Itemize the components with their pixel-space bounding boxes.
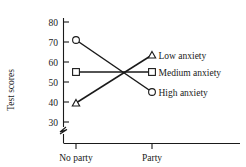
x-axis-label-no-party: No party: [59, 153, 93, 163]
y-tick-label-50: 50: [49, 78, 59, 88]
marker-high-anxiety-party: [149, 89, 156, 96]
axis-break-icon: [60, 127, 67, 134]
legend-label-high-anxiety: High anxiety: [159, 88, 209, 98]
legend-label-low-anxiety: Low anxiety: [159, 51, 207, 61]
series-line-low-anxiety: [76, 55, 152, 103]
marker-low-anxiety-party: [148, 51, 155, 58]
marker-medium-anxiety-no-party: [73, 69, 80, 76]
y-axis-title: Test scores: [6, 69, 16, 111]
x-axis-label-party: Party: [142, 153, 162, 163]
y-tick-label-40: 40: [49, 98, 59, 108]
line-chart: 80 70 60 50 40 30 Test scores No party P…: [0, 0, 246, 167]
y-tick-label-60: 60: [49, 58, 59, 68]
y-tick-label-30: 30: [49, 118, 59, 128]
marker-low-anxiety-no-party: [72, 99, 79, 106]
y-tick-label-80: 80: [49, 18, 59, 28]
legend-label-medium-anxiety: Medium anxiety: [159, 68, 222, 78]
series-line-high-anxiety: [76, 40, 152, 92]
chart-container: 80 70 60 50 40 30 Test scores No party P…: [0, 0, 246, 167]
y-tick-label-70: 70: [49, 38, 59, 48]
marker-high-anxiety-no-party: [73, 37, 80, 44]
marker-medium-anxiety-party: [149, 69, 156, 76]
